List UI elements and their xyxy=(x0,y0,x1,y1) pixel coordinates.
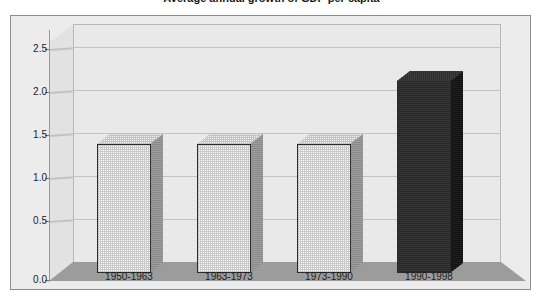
bar-front-face xyxy=(97,144,151,273)
bar-1990-1998[interactable] xyxy=(397,71,463,273)
x-axis-labels: 1950-1963 1963-1973 1973-1990 1990-1998 xyxy=(11,270,530,288)
y-axis-label-1.0: 1.0 xyxy=(21,173,47,183)
x-axis-label-2: 1963-1973 xyxy=(174,270,284,284)
plot-left-wall xyxy=(49,24,74,282)
x-axis-label-3: 1973-1990 xyxy=(274,270,384,284)
bar-side-face xyxy=(150,134,163,273)
bar-front-face xyxy=(297,144,351,273)
chart-frame: 2.5 2.0 1.5 1.0 0.5 0.0 xyxy=(10,15,531,290)
bar-front-face xyxy=(397,81,451,273)
y-axis-label-0.5: 0.5 xyxy=(21,216,47,226)
bar-side-face xyxy=(250,134,263,273)
bar-1950-1963[interactable] xyxy=(97,134,163,273)
y-axis-label-2.5: 2.5 xyxy=(21,44,47,54)
x-axis-label-4: 1990-1998 xyxy=(374,270,484,284)
bar-front-face xyxy=(197,144,251,273)
y-axis-line xyxy=(49,30,50,282)
bar-side-face xyxy=(450,71,463,273)
bar-1963-1973[interactable] xyxy=(197,134,263,273)
bar-1973-1990[interactable] xyxy=(297,134,363,273)
bar-side-face xyxy=(350,134,363,273)
chart-title: Average annual growth of GDP per capita xyxy=(0,0,543,5)
x-axis-label-1: 1950-1963 xyxy=(74,270,184,284)
gridline-2.5 xyxy=(73,47,501,48)
y-axis-label-1.5: 1.5 xyxy=(21,130,47,140)
chart-plot-area: 2.5 2.0 1.5 1.0 0.5 0.0 xyxy=(11,16,530,289)
y-axis-labels: 2.5 2.0 1.5 1.0 0.5 0.0 xyxy=(15,16,47,289)
y-axis-label-2.0: 2.0 xyxy=(21,87,47,97)
